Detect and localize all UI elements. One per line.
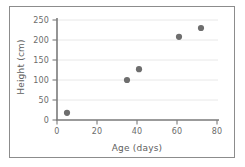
- data-points: [64, 25, 204, 116]
- x-axis-label: Age (days): [92, 143, 182, 153]
- y-axis-label: Height (cm): [16, 31, 26, 103]
- gridlines: [57, 20, 218, 100]
- x-tick-label-80: 80: [207, 127, 227, 136]
- y-tick-label-50: 50: [29, 96, 49, 105]
- x-tick-label-20: 20: [87, 127, 107, 136]
- x-tick-label-60: 60: [167, 127, 187, 136]
- data-point: [198, 25, 204, 31]
- y-tick-label-100: 100: [29, 76, 49, 85]
- data-point: [136, 66, 142, 72]
- data-point: [124, 77, 130, 83]
- x-tick-label-0: 0: [47, 127, 67, 136]
- x-tick-label-40: 40: [127, 127, 147, 136]
- y-tick-label-250: 250: [29, 16, 49, 25]
- chart-figure: 250 200 150 100 50 0 0 20 40 60 80 Age (…: [0, 0, 245, 167]
- scatter-plot: 250 200 150 100 50 0 0 20 40 60 80 Age (…: [0, 0, 245, 167]
- data-point: [176, 34, 182, 40]
- y-tick-label-200: 200: [29, 36, 49, 45]
- y-tick-label-150: 150: [29, 56, 49, 65]
- y-tick-label-0: 0: [29, 116, 49, 125]
- data-point: [64, 110, 70, 116]
